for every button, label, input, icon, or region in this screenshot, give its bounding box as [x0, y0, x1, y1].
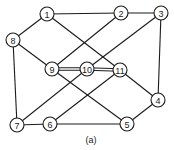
node-9: 9 — [45, 62, 59, 76]
node-label: 7 — [14, 121, 19, 131]
figure-caption: (a) — [80, 135, 102, 145]
edge-1-2 — [47, 13, 121, 14]
node-label: 10 — [82, 65, 92, 75]
edge-3-10 — [87, 13, 161, 69]
node-label: 8 — [10, 36, 15, 46]
graph-diagram: 1234567891011 — [0, 0, 174, 150]
node-label: 11 — [115, 66, 124, 76]
edge-2-9 — [52, 13, 121, 69]
node-label: 4 — [155, 96, 160, 106]
edge-9-5 — [52, 69, 127, 124]
node-11: 11 — [113, 63, 127, 77]
node-label: 2 — [118, 9, 123, 19]
edge-11-6 — [50, 70, 120, 124]
node-label: 1 — [44, 10, 49, 20]
node-3: 3 — [154, 6, 168, 20]
edge-10-7 — [17, 69, 87, 125]
node-8: 8 — [6, 33, 20, 47]
node-6: 6 — [43, 117, 57, 131]
node-label: 6 — [47, 120, 52, 130]
node-10: 10 — [80, 62, 94, 76]
node-4: 4 — [151, 93, 165, 107]
node-1: 1 — [40, 7, 54, 21]
edge-8-7 — [13, 40, 17, 125]
node-label: 3 — [158, 9, 163, 19]
node-2: 2 — [114, 6, 128, 20]
node-7: 7 — [10, 118, 24, 132]
node-5: 5 — [120, 117, 134, 131]
node-label: 5 — [124, 120, 129, 130]
edge-3-4 — [158, 13, 161, 100]
nodes-layer: 1234567891011 — [6, 6, 168, 132]
node-label: 9 — [49, 65, 54, 75]
